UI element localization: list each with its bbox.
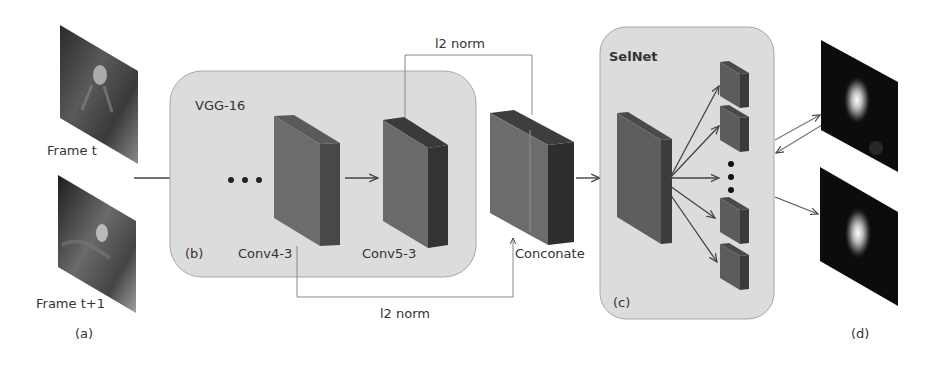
panel-c-label: (c) <box>613 295 630 310</box>
panel-b: VGG-16 (b) Conv4-3 Conv5-3 <box>170 71 476 277</box>
l2-norm-top-label: l2 norm <box>435 36 485 51</box>
panel-b-label: (b) <box>185 246 203 261</box>
panel-c: SelNet (c) <box>600 27 774 319</box>
concatenate-label: Conconate <box>515 246 585 261</box>
saliency-map-2 <box>820 167 898 306</box>
architecture-diagram: Frame t Frame t+1 (a) VGG-16 (b) Conv4-3 <box>0 0 938 368</box>
panel-d-label: (d) <box>851 326 869 341</box>
panel-d: (d) <box>820 40 898 341</box>
vgg16-title: VGG-16 <box>195 98 245 113</box>
selnet-title: SelNet <box>609 49 658 64</box>
concatenate-block <box>490 110 574 245</box>
selnet-map-arrows <box>775 115 822 214</box>
l2-norm-bottom-label: l2 norm <box>380 306 430 321</box>
vertical-ellipsis <box>728 161 734 193</box>
frame-t1-label: Frame t+1 <box>36 296 105 311</box>
frame-t1-image <box>58 175 136 313</box>
conv5-3-label: Conv5-3 <box>362 246 416 261</box>
panel-a: Frame t Frame t+1 (a) <box>36 25 138 341</box>
ellipsis-dots <box>228 177 262 183</box>
panel-a-label: (a) <box>75 326 93 341</box>
conv4-3-label: Conv4-3 <box>238 246 292 261</box>
saliency-map-1 <box>821 40 898 172</box>
frame-t-label: Frame t <box>47 143 97 158</box>
